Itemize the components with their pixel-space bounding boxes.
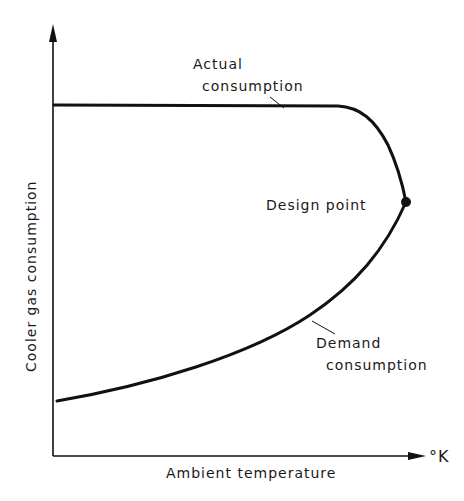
design-point-label: Design point [266, 197, 367, 213]
demand-label-line1: Demand [316, 335, 381, 351]
y-axis-arrowhead-icon [49, 24, 57, 42]
x-axis-unit: °K [429, 447, 450, 466]
x-axis-arrowhead-icon [408, 452, 426, 460]
actual-label-line1: Actual [193, 56, 243, 72]
y-axis-label: Cooler gas consumption [23, 181, 39, 372]
demand-label-leader [312, 321, 335, 334]
diagram-canvas: Actual consumption Design point Demand c… [0, 0, 464, 501]
actual-consumption-curve [54, 105, 406, 202]
x-axis-label: Ambient temperature [166, 465, 336, 481]
actual-label-line2: consumption [202, 78, 304, 94]
demand-label-line2: consumption [326, 357, 428, 373]
design-point-marker [401, 197, 411, 207]
